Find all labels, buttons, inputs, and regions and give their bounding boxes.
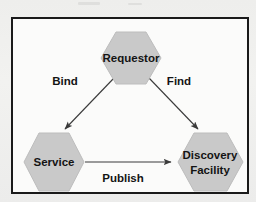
edge-label-publish: Publish <box>102 172 144 184</box>
edge-group <box>65 78 198 162</box>
node-discovery-facility[interactable]: Discovery Facility <box>178 133 243 191</box>
requestor-label: Requestor <box>103 52 160 64</box>
service-label: Service <box>34 156 75 168</box>
node-requestor[interactable]: Requestor <box>101 32 161 84</box>
node-service[interactable]: Service <box>24 133 84 191</box>
scan-artifact-top-left <box>78 2 100 5</box>
diagram-frame: Requestor Service Discovery Facility Bin… <box>11 17 249 194</box>
edge-label-bind: Bind <box>52 75 78 87</box>
edge-label-find: Find <box>167 75 191 87</box>
scan-artifact-top-right <box>128 3 142 5</box>
discovery-facility-label-line2: Facility <box>190 164 230 176</box>
discovery-facility-label-line1: Discovery <box>183 149 239 161</box>
discovery-facility-hexagon <box>178 133 243 191</box>
service-oriented-architecture-diagram: Requestor Service Discovery Facility Bin… <box>13 19 247 192</box>
